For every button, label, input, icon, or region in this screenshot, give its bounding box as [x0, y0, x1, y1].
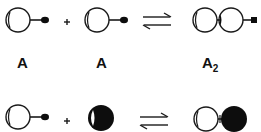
heterodimer-ab: [194, 106, 247, 132]
row-1-equation: A A A2: [6, 8, 257, 74]
label-a2-main: A: [202, 54, 213, 71]
monomer-a-1: [6, 8, 49, 32]
label-a2: A2: [202, 54, 219, 74]
row-2-equation: [6, 105, 247, 132]
equilibrium-arrows-row1: [143, 13, 171, 29]
label-a-2: A: [96, 54, 107, 71]
plus-sign-row2: [64, 118, 70, 124]
dimer-a2: [193, 8, 257, 32]
plus-sign-row1: [64, 19, 70, 25]
dimerization-diagram: A A A2: [0, 0, 261, 132]
dark-partner-b: [88, 105, 114, 131]
label-a2-subscript: 2: [213, 63, 219, 74]
monomer-a-row2: [6, 105, 49, 129]
monomer-a-2: [85, 8, 128, 32]
label-a-1: A: [17, 54, 28, 71]
equilibrium-arrows-row2: [140, 113, 168, 129]
